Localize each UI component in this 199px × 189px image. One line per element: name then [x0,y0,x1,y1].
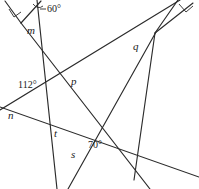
line-diagonal-long-right [68,32,156,189]
variable-label-m: m [27,25,35,36]
line-upper-right-leg-a [155,3,193,33]
variable-label-n: n [8,110,14,121]
angle-label-70: 70° [88,140,102,150]
angle-label-112: 112° [18,80,37,90]
geometry-figure: 60° 112° 70° m q p n t s [0,0,199,189]
line-p-to-bottomright [21,23,150,189]
variable-label-p: p [71,76,77,87]
line-upper-right-leg-b [155,0,178,33]
variable-label-t: t [54,128,57,139]
right-angle-left-icon [9,9,21,17]
variable-label-s: s [71,149,75,160]
angle-label-60: 60° [47,4,61,14]
variable-label-q: q [133,41,139,52]
line-m-left-leg [5,1,21,23]
line-steep-long [37,0,57,189]
